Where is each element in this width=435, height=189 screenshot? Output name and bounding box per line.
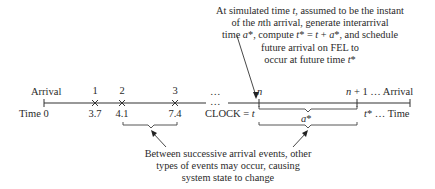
event-time-1: 3.7 [83, 108, 107, 120]
n-plus-one-arrival-label: n + 1 … Arrival [346, 86, 413, 98]
top-note-line: of the nth arrival, generate interarriva… [200, 17, 420, 29]
t-star-time-label: t* … Time [364, 108, 410, 120]
top-note-line: At simulated time t, assumed to be the i… [200, 5, 420, 17]
bottom-note-line: system state to change [128, 172, 328, 184]
clock-label: CLOCK = t [205, 108, 255, 120]
top-note-line: future arrival on FEL to [200, 42, 420, 54]
event-number-1: 1 [89, 85, 101, 97]
event-number-2: 2 [116, 85, 128, 97]
event-time-2: 4.1 [110, 108, 134, 120]
arrival-label: Arrival [31, 86, 61, 98]
bottom-note-line: types of events may occur, causing [128, 160, 328, 172]
top-annotation: At simulated time t, assumed to be the i… [200, 5, 420, 66]
interval-brace-upper [259, 106, 357, 112]
bottom-note-line: Between successive arrival events, other [128, 148, 328, 160]
n-label: n [257, 86, 262, 98]
bottom-right-arrow [293, 133, 306, 147]
event-time-3: 7.4 [163, 108, 187, 120]
a-star-label: a* [301, 113, 312, 125]
event-number-3: 3 [169, 85, 181, 97]
time-zero-label: Time 0 [19, 108, 49, 120]
bottom-left-arrow [153, 133, 166, 147]
bottom-annotation: Between successive arrival events, other… [128, 148, 328, 185]
ellipsis-mid: … [210, 96, 221, 108]
top-note-line: time a*, compute t* = t + a*, and schedu… [200, 29, 420, 41]
top-note-line: occur at future time t* [200, 54, 420, 66]
between-events-brace [123, 122, 177, 128]
